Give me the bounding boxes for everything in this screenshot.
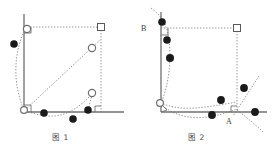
filled-circle-bottom-low [208,111,216,119]
filled-circle-right-lower [251,108,259,116]
filled-circle-bottom-2 [69,115,77,123]
point-label-A: A [226,117,232,126]
dotted-arc-left [16,26,27,110]
open-square-marker-top-right [98,24,105,31]
filled-circle-left-upper [10,40,18,48]
open-circle-origin [21,107,28,114]
figure-1 [0,0,137,147]
open-circle-origin [157,100,164,107]
filled-circle-at-B [158,18,166,26]
point-label-B: B [141,24,146,33]
filled-circle-left-1 [163,36,171,44]
dotted-arc-bottom [25,94,92,116]
filled-circle-bottom-1 [40,109,48,117]
figure-1-caption: 图 1 [52,131,69,142]
filled-circle-bottom-3 [84,106,92,114]
figure-2-caption: 图 2 [188,131,205,142]
open-square-marker-top-right [234,25,241,32]
filled-circle-right-upper [240,84,248,92]
figure-2 [137,0,274,147]
filled-circle-left-2 [166,54,174,62]
open-circle-diagonal [88,44,95,51]
dotted-curve-bottom-upper [163,102,237,108]
open-circle-top [23,25,30,32]
right-angle-marker-bottom-right [95,106,101,112]
filled-circle-bottom-mid [217,96,225,104]
figure-1-canvas [0,0,137,147]
figure-2-canvas [137,0,274,147]
diagram-root: B A 图 1 图 2 [0,0,274,147]
open-circle-right [88,89,95,96]
dotted-line-through-A-lower [237,110,263,132]
